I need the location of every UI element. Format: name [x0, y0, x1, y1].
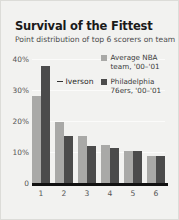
bar: [87, 146, 96, 183]
bar: [78, 136, 87, 183]
annotation-label: Iverson: [66, 77, 94, 86]
x-tick-label: 3: [78, 189, 96, 198]
leader-line-icon: [57, 81, 63, 82]
x-tick-label: 6: [147, 189, 165, 198]
legend-item-label: Philadelphia 76ers, '00–'01: [111, 78, 172, 95]
chart-legend: Average NBA team, '00–'01 Philadelphia 7…: [101, 54, 171, 102]
x-tick-label: 1: [32, 189, 50, 198]
chart-subtitle: Point distribution of top 6 scorers on t…: [15, 35, 175, 44]
bar: [147, 156, 156, 183]
bar: [124, 151, 133, 183]
legend-item: Philadelphia 76ers, '00–'01: [101, 78, 171, 95]
chart-title: Survival of the Fittest: [15, 19, 153, 33]
legend-item: Average NBA team, '00–'01: [101, 54, 171, 71]
chart-figure: Survival of the Fittest Point distributi…: [0, 0, 179, 220]
y-tick-label: 0: [24, 179, 29, 188]
bar-group: [32, 59, 50, 183]
bar: [64, 136, 73, 183]
x-tick-label: 4: [101, 189, 119, 198]
y-tick-label: 20%: [13, 117, 29, 126]
bar: [32, 96, 41, 183]
bar: [110, 148, 119, 183]
legend-swatch-average-nba: [101, 55, 107, 61]
x-tick-label: 2: [55, 189, 73, 198]
y-axis: 40% 30% 20% 10% 0: [1, 59, 29, 183]
x-axis: 123456: [32, 189, 165, 198]
bar: [101, 145, 110, 183]
bar: [41, 66, 50, 184]
bar: [55, 122, 64, 183]
bar: [133, 151, 142, 183]
x-tick-label: 5: [124, 189, 142, 198]
x-axis-baseline: [32, 183, 168, 186]
legend-item-label: Average NBA team, '00–'01: [111, 54, 172, 71]
y-tick-label: 30%: [13, 86, 29, 95]
y-tick-label: 40%: [13, 55, 29, 64]
y-tick-label: 10%: [13, 148, 29, 157]
iverson-annotation: Iverson: [57, 77, 93, 86]
legend-swatch-philadelphia: [101, 79, 107, 85]
bar: [156, 156, 165, 183]
